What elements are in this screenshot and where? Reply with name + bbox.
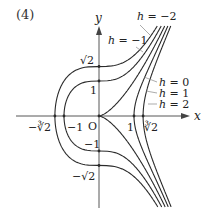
curve-label-hneg2: h = −2 <box>137 10 177 23</box>
x-tick-cbrt2: ∛2 <box>144 120 158 134</box>
y-axis-label: y <box>94 11 102 25</box>
x-tick-1: 1 <box>127 121 134 134</box>
labels: xyO−∛2−11∛2√21−1−√2h = −2h = −1h = 0h = … <box>28 10 201 183</box>
panel-label: (4) <box>16 7 34 22</box>
leader-line <box>146 91 157 93</box>
intercept-dot <box>98 80 101 83</box>
x-axis-label: x <box>194 109 201 123</box>
level-curves-diagram: xyO−∛2−11∛2√21−1−√2h = −2h = −1h = 0h = … <box>0 0 211 220</box>
intercept-dot <box>63 115 66 118</box>
level-curve-h2 <box>143 26 171 207</box>
intercept-dot <box>98 115 101 118</box>
y-tick-1: 1 <box>90 84 97 97</box>
y-axis-arrow-icon <box>96 26 102 35</box>
curve-label-h2: h = 2 <box>159 98 189 111</box>
intercept-dot <box>98 65 101 68</box>
intercept-dot <box>142 115 145 118</box>
x-tick-neg-cbrt2: −∛2 <box>28 120 51 134</box>
curve-label-hneg1: h = −1 <box>108 34 148 47</box>
y-tick-neg-sqrt2: −√2 <box>72 170 95 183</box>
intercept-dot <box>54 115 57 118</box>
y-tick-sqrt2: √2 <box>80 54 94 67</box>
origin-label: O <box>88 120 97 133</box>
intercept-dot <box>98 164 101 167</box>
intercept-dot <box>133 115 136 118</box>
x-tick-neg1: −1 <box>67 121 83 134</box>
y-tick-neg1: −1 <box>84 138 100 151</box>
x-axis-arrow-icon <box>181 113 190 119</box>
